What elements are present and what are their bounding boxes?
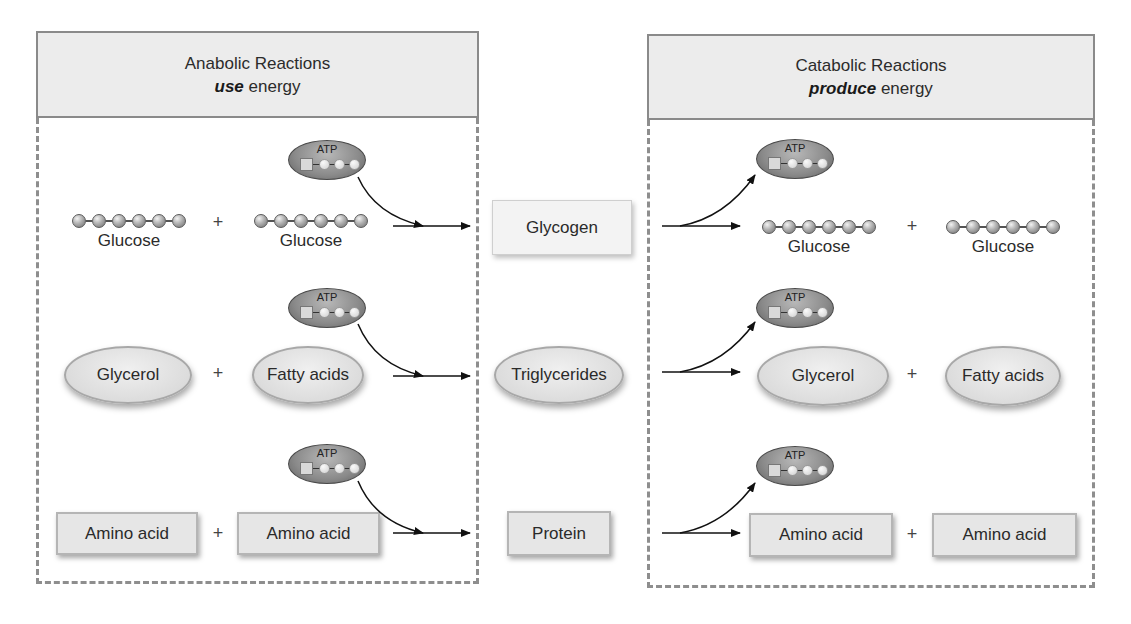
phosphate-dot [802, 158, 813, 169]
glucose-label: Glucose [240, 231, 382, 251]
anabolic-header: Anabolic Reactions use energy [36, 31, 479, 118]
catabolic-title: Catabolic Reactions [795, 54, 946, 77]
glucose-label: Glucose [748, 237, 890, 257]
plus-sign: + [208, 363, 228, 384]
glycogen-box: Glycogen [492, 200, 632, 255]
adenosine-square [768, 157, 781, 170]
anabolic-subtitle-rest: energy [244, 77, 301, 96]
phosphate-dot [319, 463, 330, 474]
phosphate-dot [817, 307, 828, 318]
phosphate-dot [334, 463, 345, 474]
phosphate-dot [319, 307, 330, 318]
catabolic-subtitle: produce energy [809, 77, 933, 100]
glycerol-oval-catabolic: Glycerol [757, 346, 889, 406]
anabolic-subtitle: use energy [215, 75, 301, 98]
adenosine-square [300, 462, 313, 475]
glucose-label: Glucose [58, 231, 200, 251]
adenosine-square [300, 158, 313, 171]
phosphate-dot [334, 159, 345, 170]
amino-acid-box-catabolic: Amino acid [749, 513, 893, 557]
catabolic-subtitle-emphasis: produce [809, 79, 876, 98]
glycerol-oval-anabolic: Glycerol [64, 346, 192, 404]
glucose-left-anabolic: Glucose [58, 214, 200, 251]
phosphate-dot [334, 307, 345, 318]
phosphate-dot [787, 465, 798, 476]
glucose-left-catabolic: Glucose [748, 220, 890, 257]
atp-label: ATP [757, 142, 833, 154]
glucose-label: Glucose [932, 237, 1074, 257]
atp-molecule-icon: ATP [288, 288, 366, 328]
catabolic-subtitle-rest: energy [876, 79, 933, 98]
phosphate-dot [802, 465, 813, 476]
adenosine-square [768, 306, 781, 319]
phosphate-dot [787, 307, 798, 318]
phosphate-dot [349, 307, 360, 318]
atp-molecule-icon: ATP [756, 446, 834, 486]
atp-label: ATP [289, 143, 365, 155]
phosphate-dot [349, 463, 360, 474]
atp-label: ATP [757, 449, 833, 461]
amino-acid-box-anabolic: Amino acid [237, 512, 380, 555]
atp-label: ATP [289, 447, 365, 459]
phosphate-dot [817, 465, 828, 476]
atp-molecule-icon: ATP [756, 288, 834, 328]
atp-label: ATP [289, 291, 365, 303]
anabolic-subtitle-emphasis: use [215, 77, 244, 96]
atp-molecule-icon: ATP [756, 139, 834, 179]
glucose-chain-icon [240, 214, 382, 228]
atp-label: ATP [757, 291, 833, 303]
protein-box: Protein [507, 511, 611, 556]
glucose-chain-icon [58, 214, 200, 228]
amino-acid-box-anabolic: Amino acid [56, 512, 198, 555]
plus-sign: + [208, 523, 228, 544]
catabolic-header: Catabolic Reactions produce energy [647, 34, 1095, 120]
glucose-right-catabolic: Glucose [932, 220, 1074, 257]
plus-sign: + [902, 364, 922, 385]
amino-acid-box-catabolic: Amino acid [932, 513, 1077, 557]
atp-molecule-icon: ATP [288, 444, 366, 484]
fatty-acids-oval-catabolic: Fatty acids [945, 346, 1061, 406]
fatty-acids-oval-anabolic: Fatty acids [252, 346, 364, 404]
phosphate-dot [319, 159, 330, 170]
phosphate-dot [349, 159, 360, 170]
plus-sign: + [902, 216, 922, 237]
plus-sign: + [902, 524, 922, 545]
atp-molecule-icon: ATP [288, 140, 366, 180]
plus-sign: + [208, 212, 228, 233]
triglycerides-oval: Triglycerides [494, 346, 624, 404]
glucose-chain-icon [748, 220, 890, 234]
phosphate-dot [787, 158, 798, 169]
phosphate-dot [802, 307, 813, 318]
adenosine-square [768, 464, 781, 477]
adenosine-square [300, 306, 313, 319]
phosphate-dot [817, 158, 828, 169]
glucose-right-anabolic: Glucose [240, 214, 382, 251]
glucose-chain-icon [932, 220, 1074, 234]
anabolic-title: Anabolic Reactions [185, 52, 331, 75]
